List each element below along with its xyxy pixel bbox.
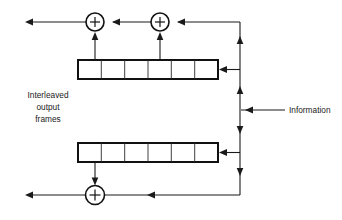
- feed-wire-top-register: [219, 66, 240, 73]
- diagram-canvas: Interleaved output frames Information: [0, 0, 342, 220]
- arrowhead-bus-up-1: [237, 36, 244, 44]
- output-label-line-1: Interleaved: [27, 90, 68, 100]
- interleaver-diagram: Interleaved output frames Information: [0, 0, 342, 220]
- wire-bus-to-adder2: [177, 19, 240, 26]
- wire-bus-to-adder-bottom: [105, 192, 241, 199]
- arrowhead-between-top-adders: [112, 19, 120, 26]
- arrowhead-tap-bottom: [92, 178, 99, 186]
- arrowhead-bus-down-1: [237, 126, 244, 134]
- information-input-wire: [241, 107, 285, 114]
- information-label: Information: [289, 105, 331, 115]
- adder-top-left: [86, 13, 104, 31]
- adder-bottom: [86, 186, 105, 205]
- tap-wire-bottom: [92, 162, 99, 186]
- output-label: Interleaved output frames: [27, 90, 68, 124]
- arrowhead-bus-to-top-adder: [177, 19, 185, 26]
- arrowhead-output-bottom: [25, 192, 33, 199]
- output-wire-bottom: [25, 192, 86, 199]
- arrowhead-bus-down-2: [237, 168, 244, 176]
- shift-register-top: [78, 60, 218, 79]
- arrowhead-information-input: [245, 107, 253, 114]
- information-bus: [237, 22, 244, 195]
- tap-wire-right: [157, 32, 164, 60]
- wire-adder2-to-adder1: [112, 19, 151, 26]
- arrowhead-tap-left: [92, 32, 99, 40]
- arrowhead-feed-top-register: [219, 66, 227, 73]
- output-label-line-3: frames: [35, 114, 60, 124]
- arrowhead-bus-to-bottom-adder: [147, 192, 155, 199]
- output-wire-top: [25, 19, 86, 26]
- arrowhead-bus-up-2: [237, 86, 244, 94]
- arrowhead-feed-bottom-register: [219, 149, 227, 156]
- arrowhead-output-top: [25, 19, 33, 26]
- feed-wire-bottom-register: [219, 149, 240, 156]
- shift-register-bottom: [78, 143, 218, 162]
- arrowhead-tap-right: [157, 32, 164, 40]
- adder-top-right: [151, 13, 169, 31]
- output-label-line-2: output: [36, 102, 60, 112]
- tap-wire-left: [92, 32, 99, 60]
